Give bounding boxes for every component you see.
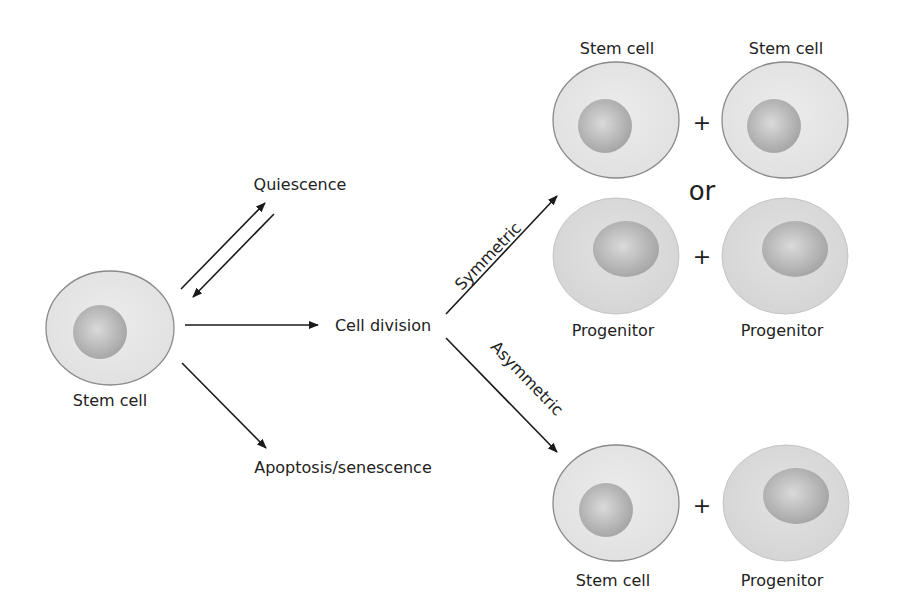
- progenitor-nucleus: [762, 221, 828, 277]
- symmetric-outcome-stem-stem: Stem cell + Stem cell: [553, 39, 848, 178]
- stem-cell-nucleus: [578, 99, 632, 153]
- cell-division-label: Cell division: [335, 316, 431, 335]
- source-cell-label: Stem cell: [73, 391, 147, 410]
- outcome-label-progenitor: Progenitor: [572, 321, 655, 340]
- plus-sign: +: [693, 493, 711, 518]
- asymmetric-outcome-stem-progenitor: Stem cell + Progenitor: [553, 445, 849, 590]
- progenitor-nucleus: [593, 221, 659, 277]
- symmetric-label: Symmetric: [451, 218, 525, 294]
- source-stem-cell: Stem cell: [46, 271, 174, 410]
- stem-cell-nucleus: [747, 99, 801, 153]
- apoptosis-label: Apoptosis/senescence: [254, 458, 432, 477]
- plus-sign: +: [693, 110, 711, 135]
- arrow-to-quiescence: [181, 203, 265, 289]
- stem-cell-fate-diagram: Stem cell Quiescence Cell division Apopt…: [0, 0, 898, 613]
- symmetric-outcome-progenitor-progenitor: Progenitor + Progenitor: [553, 198, 848, 340]
- arrow-to-apoptosis: [182, 363, 266, 448]
- quiescence-arrows: [181, 203, 274, 297]
- stem-cell-nucleus: [579, 483, 633, 537]
- arrow-from-quiescence: [193, 214, 274, 297]
- outcome-label-stem-cell: Stem cell: [576, 571, 650, 590]
- cell-nucleus: [73, 305, 127, 359]
- progenitor-nucleus: [763, 468, 829, 524]
- plus-sign: +: [693, 244, 711, 269]
- outcome-label-stem-cell: Stem cell: [749, 39, 823, 58]
- asymmetric-label: Asymmetric: [487, 337, 567, 419]
- outcome-label-stem-cell: Stem cell: [580, 39, 654, 58]
- outcome-label-progenitor: Progenitor: [741, 571, 824, 590]
- outcome-label-progenitor: Progenitor: [741, 321, 824, 340]
- quiescence-label: Quiescence: [254, 175, 347, 194]
- or-connector: or: [689, 176, 716, 206]
